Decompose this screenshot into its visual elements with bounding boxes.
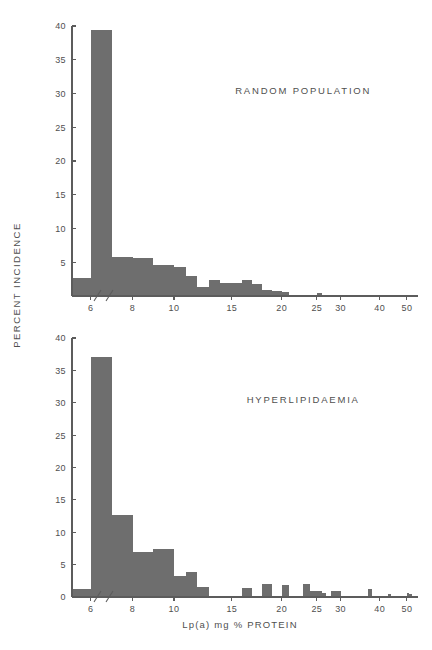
figure-container: 5101520253035406810152025304050RANDOM PO…	[0, 0, 432, 650]
panel-title: RANDOM POPULATION	[235, 85, 371, 96]
x-tick-label: 20	[276, 604, 287, 614]
x-tick-label: 15	[226, 303, 237, 313]
histogram-bar	[272, 291, 282, 296]
histogram-bar	[153, 265, 174, 296]
y-tick-label: 40	[55, 21, 66, 31]
y-tick-label: 10	[55, 224, 66, 234]
histogram-bar	[282, 585, 289, 597]
y-tick-label: 25	[55, 431, 66, 441]
y-axis-label: PERCENT INCIDENCE	[11, 222, 22, 348]
histogram-bar	[112, 257, 133, 296]
y-tick-label: 25	[55, 123, 66, 133]
y-tick-label: 35	[55, 366, 66, 376]
y-tick-label: 40	[55, 333, 66, 343]
x-tick-group: 6810152025304050	[88, 597, 412, 614]
histogram-bar	[91, 357, 112, 597]
histogram-bar	[242, 280, 252, 296]
histogram-bar	[242, 588, 252, 597]
histogram-bar	[407, 593, 410, 597]
histogram-bar	[310, 591, 317, 597]
x-tick-label: 20	[276, 303, 287, 313]
x-tick-label: 8	[130, 604, 135, 614]
chart-panel-random-population: 5101520253035406810152025304050RANDOM PO…	[55, 21, 418, 313]
x-tick-label: 8	[130, 303, 135, 313]
histogram-bar	[153, 549, 174, 597]
x-tick-label: 30	[335, 303, 346, 313]
x-tick-label: 10	[169, 604, 180, 614]
x-tick-label: 25	[311, 604, 322, 614]
histogram-bar	[209, 280, 221, 296]
y-tick-label: 5	[61, 560, 66, 570]
histogram-bar	[197, 587, 209, 597]
y-tick-label: 20	[55, 156, 66, 166]
y-tick-label: 30	[55, 89, 66, 99]
y-tick-label: 5	[61, 258, 66, 268]
x-tick-label: 40	[374, 604, 385, 614]
histogram-bar	[197, 287, 209, 296]
histogram-bar	[317, 591, 322, 597]
histogram-bar	[322, 593, 327, 597]
panel-title: HYPERLIPIDAEMIA	[247, 394, 360, 405]
histogram-bar	[303, 584, 310, 597]
y-tick-label: 15	[55, 190, 66, 200]
y-tick-label: 35	[55, 55, 66, 65]
y-tick-label: 10	[55, 528, 66, 538]
histogram-bar	[91, 30, 112, 296]
histogram-bar	[72, 278, 91, 296]
histogram-bar	[186, 276, 198, 296]
histogram-bar	[232, 283, 242, 296]
histogram-bar	[336, 591, 341, 597]
y-tick-label: 30	[55, 398, 66, 408]
x-tick-label: 25	[311, 303, 322, 313]
y-tick-label: 20	[55, 463, 66, 473]
histogram-bar	[220, 283, 232, 296]
x-tick-label: 10	[169, 303, 180, 313]
bar-series	[72, 30, 322, 296]
histogram-bar	[174, 267, 186, 296]
histogram-bar	[133, 552, 154, 597]
histogram-bar	[368, 589, 372, 597]
histogram-bar	[262, 290, 272, 296]
x-tick-label: 40	[374, 303, 385, 313]
histogram-bar	[262, 584, 272, 597]
x-axis-label: Lp(a) mg % PROTEIN	[182, 619, 298, 630]
histogram-bar	[186, 572, 198, 597]
x-tick-label: 30	[335, 604, 346, 614]
histogram-bar	[331, 591, 336, 597]
x-tick-label: 50	[401, 303, 412, 313]
x-tick-label: 50	[401, 604, 412, 614]
x-tick-label: 6	[88, 604, 93, 614]
histogram-bar	[174, 576, 186, 597]
histogram-figure: 5101520253035406810152025304050RANDOM PO…	[0, 0, 432, 650]
histogram-bar	[133, 258, 154, 296]
histogram-bar	[252, 284, 262, 296]
y-tick-label: 15	[55, 495, 66, 505]
histogram-bar	[72, 589, 91, 597]
y-tick-group: 510152025303540	[55, 21, 76, 296]
bar-series	[72, 357, 412, 597]
histogram-bar	[282, 292, 289, 296]
x-tick-group: 6810152025304050	[88, 296, 412, 313]
chart-panel-hyperlipidaemia: 05101520253035406810152025304050HYPERLIP…	[55, 333, 418, 614]
x-tick-label: 6	[88, 303, 93, 313]
histogram-bar	[112, 515, 133, 597]
y-tick-label: 0	[61, 592, 66, 602]
y-tick-group: 0510152025303540	[55, 333, 76, 602]
x-tick-label: 15	[226, 604, 237, 614]
